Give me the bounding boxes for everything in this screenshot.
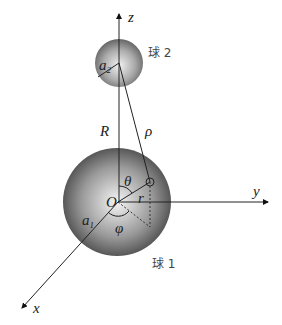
sphere-1-label: 球 1: [152, 257, 175, 271]
R-label: R: [99, 123, 109, 139]
sphere-2-label: 球 2: [148, 46, 171, 60]
r-label: r: [138, 190, 144, 206]
y-axis-label: y: [251, 183, 260, 199]
two-sphere-coordinate-diagram: z y x 球 2 球 1 a2 a1 R ρ θ O r φ: [0, 0, 282, 325]
theta-label: θ: [124, 173, 132, 189]
rho-label: ρ: [144, 123, 152, 139]
z-axis-label: z: [127, 9, 134, 25]
phi-label: φ: [115, 220, 123, 236]
origin-label: O: [106, 194, 117, 210]
x-axis-label: x: [32, 300, 40, 316]
